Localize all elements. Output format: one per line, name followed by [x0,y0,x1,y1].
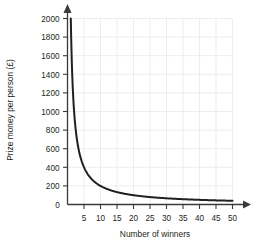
x-tick-label: 35 [178,214,188,223]
x-tick-label: 45 [211,214,221,223]
x-tick-label: 15 [112,214,122,223]
y-tick-label: 400 [46,164,60,173]
y-tick-label: 1600 [41,52,60,61]
y-axis-title: Prize money per person (£) [5,59,15,161]
y-tick-label: 1200 [41,89,60,98]
y-tick-label: 1800 [41,33,60,42]
chart-container: 05101520253035404550 2004006008001000120… [0,0,266,249]
x-tick-label: 20 [129,214,139,223]
x-tick-label: 30 [162,214,172,223]
x-tick-label: 40 [195,214,205,223]
origin-label: 0 [55,201,60,210]
y-tick-label: 200 [46,182,60,191]
x-tick-label: 5 [82,214,87,223]
x-axis-title: Number of winners [120,229,190,239]
y-tick-label: 800 [46,126,60,135]
y-tick-label: 2000 [41,15,60,24]
prize-money-line-chart: 05101520253035404550 2004006008001000120… [0,0,266,249]
x-tick-label: 10 [96,214,106,223]
x-tick-label: 50 [228,214,238,223]
y-tick-label: 1400 [41,71,60,80]
x-tick-label: 25 [145,214,155,223]
y-tick-label: 1000 [41,108,60,117]
y-tick-label: 600 [46,145,60,154]
